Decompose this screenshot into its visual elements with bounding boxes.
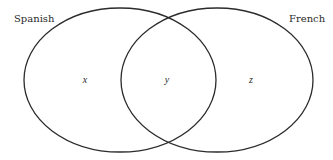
- french-set-label: French: [289, 14, 325, 24]
- french-only-region-label: z: [249, 75, 253, 85]
- french-set-ellipse: [121, 8, 313, 152]
- spanish-set-label: Spanish: [14, 14, 54, 24]
- spanish-only-region-label: x: [83, 75, 87, 85]
- intersection-region-label: y: [165, 75, 169, 85]
- spanish-set-ellipse: [24, 8, 216, 152]
- venn-diagram: Spanish French x y z: [0, 0, 333, 160]
